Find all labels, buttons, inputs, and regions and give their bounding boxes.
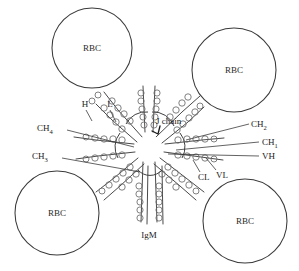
label-ch3: CH3 bbox=[32, 151, 48, 163]
igm-arm-right bbox=[164, 133, 224, 162]
igm-arm-bottom-left bbox=[96, 158, 144, 200]
domain-beads-top-right bbox=[167, 94, 203, 133]
label-vl: VL bbox=[216, 170, 228, 180]
rbc-top-right: RBC bbox=[192, 28, 276, 112]
leader-ch4 bbox=[67, 130, 134, 147]
igm-arm-left bbox=[74, 133, 135, 162]
igm-rbc-diagram: RBC RBC RBC RBC bbox=[0, 0, 299, 271]
label-h: H bbox=[82, 99, 89, 109]
label-ch4-sub: 4 bbox=[50, 128, 54, 135]
label-ch1-sub: 1 bbox=[275, 142, 278, 149]
label-ch4: CH4 bbox=[37, 123, 54, 135]
label-ch1: CH1 bbox=[262, 137, 278, 149]
diagram-canvas: RBC RBC RBC RBC bbox=[0, 0, 299, 271]
rbc-top-left: RBC bbox=[52, 8, 132, 88]
igm-arm-lower-center bbox=[136, 162, 163, 224]
leader-ch1 bbox=[176, 142, 259, 150]
label-ch1-base: CH bbox=[262, 137, 275, 147]
label-l: L bbox=[107, 99, 113, 109]
rbc-bottom-right: RBC bbox=[203, 179, 287, 263]
domain-beads-left bbox=[83, 134, 125, 162]
igm-arm-bottom-right bbox=[154, 158, 204, 200]
rbc-label: RBC bbox=[83, 43, 101, 53]
label-vh: VH bbox=[262, 151, 275, 161]
label-ch3-sub: 3 bbox=[45, 156, 48, 163]
rbc-label: RBC bbox=[225, 65, 243, 75]
rbc-bottom-left: RBC bbox=[15, 171, 99, 255]
label-ch4-base: CH bbox=[37, 123, 50, 133]
label-cl: CL bbox=[198, 172, 210, 182]
rbc-label: RBC bbox=[236, 216, 254, 226]
leader-ch3 bbox=[62, 158, 140, 172]
leader-cl bbox=[193, 160, 200, 172]
leader-h bbox=[86, 110, 92, 121]
domain-beads-bottom-right bbox=[159, 164, 199, 194]
label-ch2-base: CH bbox=[251, 119, 264, 129]
domain-beads-lower-center bbox=[136, 183, 162, 221]
pentamer-hub bbox=[138, 135, 160, 157]
label-ch2-sub: 2 bbox=[264, 124, 267, 131]
label-ch2: CH2 bbox=[251, 119, 267, 131]
label-igm: IgM bbox=[141, 230, 157, 240]
label-j-chain: J chain bbox=[156, 116, 182, 126]
label-ch3-base: CH bbox=[32, 151, 45, 161]
leader-ch2 bbox=[186, 124, 249, 140]
rbc-label: RBC bbox=[48, 208, 66, 218]
